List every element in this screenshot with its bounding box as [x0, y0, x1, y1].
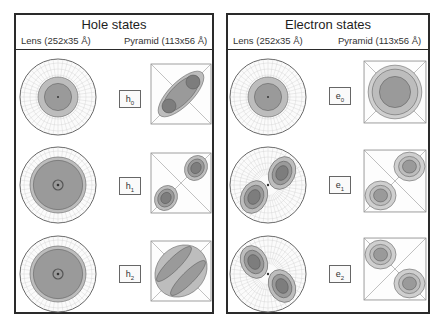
- lens-center-dot: [57, 184, 60, 187]
- state-label-e2: e2: [329, 265, 351, 283]
- lens-e2-plot: [226, 232, 310, 316]
- state-label-h1: h1: [119, 177, 141, 195]
- lens-center-dot: [267, 184, 269, 186]
- lens-e1-plot: [226, 143, 310, 227]
- panel-title: Hole states: [16, 17, 212, 32]
- pyramid-e0-plot: [363, 60, 427, 124]
- pyramid-column-label: Pyramid (113x56 Å): [338, 35, 421, 46]
- pyramid-lobe-lower-layer-2: [402, 277, 416, 290]
- header-divider: [16, 49, 212, 50]
- lens-h2-plot: [16, 232, 100, 316]
- pyramid-h0-plot: [150, 63, 212, 125]
- state-label-h2: h2: [119, 265, 141, 283]
- hole-states-panel: Hole states Lens (252x35 Å) Pyramid (113…: [14, 13, 214, 314]
- lens-h0-plot: [16, 55, 100, 139]
- pyramid-e2-plot: [363, 237, 427, 301]
- pyramid-h2-plot: [150, 240, 212, 302]
- lens-center-dot: [57, 273, 60, 276]
- pyramid-peak-layer-0: [162, 99, 176, 113]
- header-divider: [228, 49, 428, 50]
- pyramid-e1-plot: [363, 149, 427, 213]
- pyramid-density-layer-2: [379, 76, 410, 107]
- pyramid-peak-layer-0: [186, 75, 200, 89]
- panel-title: Electron states: [228, 17, 428, 32]
- pyramid-lobe-lower-layer-2: [374, 189, 388, 202]
- state-label-h0: h0: [119, 90, 141, 108]
- state-label-e0: e0: [329, 87, 351, 105]
- pyramid-column-label: Pyramid (113x56 Å): [124, 35, 207, 46]
- lens-h1-plot: [16, 143, 100, 227]
- pyramid-h1-plot: [150, 152, 212, 214]
- lens-center-dot: [267, 273, 269, 275]
- lens-column-label: Lens (252x35 Å): [233, 35, 303, 46]
- pyramid-lobe-upper-layer-2: [374, 248, 388, 261]
- state-label-e1: e1: [329, 176, 351, 194]
- lens-column-label: Lens (252x35 Å): [21, 35, 91, 46]
- electron-states-panel: Electron states Lens (252x35 Å) Pyramid …: [226, 13, 430, 314]
- pyramid-lobe-upper-layer-2: [402, 160, 416, 173]
- lens-center-dot: [267, 96, 269, 98]
- lens-center-dot: [57, 96, 59, 98]
- lens-e0-plot: [226, 55, 310, 139]
